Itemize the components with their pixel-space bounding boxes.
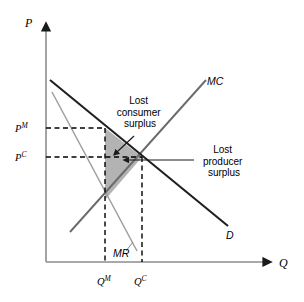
- deadweight-loss-region: [105, 128, 142, 200]
- lost-producer-surplus-label: Lost producer surplus: [203, 144, 245, 178]
- lost-consumer-surplus-line2: consumer: [117, 107, 162, 118]
- lost-consumer-surplus-line3: surplus: [124, 118, 156, 129]
- quantity-monopoly-superscript: M: [104, 274, 112, 283]
- quantity-competitive-superscript: C: [142, 274, 148, 283]
- lost-producer-surplus-line3: surplus: [208, 167, 240, 178]
- monopoly-deadweight-loss-diagram: P Q PM PC QM QC MC MR D Lost consumer su…: [0, 0, 304, 302]
- y-axis-label: P: [24, 16, 33, 30]
- marginal-revenue-label: MR: [113, 247, 130, 259]
- lost-producer-surplus-line2: producer: [203, 156, 243, 167]
- price-monopoly-tick-label: PM: [14, 121, 28, 134]
- price-competitive-tick-label: PC: [14, 150, 27, 163]
- lost-consumer-surplus-label: Lost consumer surplus: [117, 95, 164, 129]
- lost-producer-surplus-line1: Lost: [213, 144, 232, 155]
- price-competitive-superscript: C: [21, 150, 27, 159]
- x-axis-label: Q: [279, 256, 288, 270]
- price-monopoly-superscript: M: [20, 121, 28, 130]
- marginal-cost-label: MC: [207, 75, 224, 87]
- quantity-monopoly-tick-label: QM: [97, 274, 112, 287]
- lost-consumer-surplus-line1: Lost: [129, 95, 148, 106]
- quantity-competitive-tick-label: QC: [134, 274, 148, 287]
- demand-label: D: [226, 229, 234, 241]
